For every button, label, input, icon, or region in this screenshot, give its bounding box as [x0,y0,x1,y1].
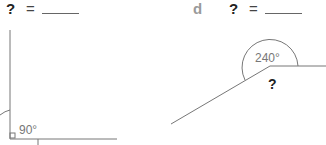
angle-label-240: 240° [255,51,280,65]
unknown-angle-label: ? [268,76,277,92]
right-angle-figure: 90° [0,30,117,145]
reflex-angle-figure: 240° ? [171,39,326,124]
angle-label-90: 90° [19,123,37,137]
slanted-ray [171,66,270,124]
right-angle-marker-icon [10,133,15,138]
angle-arc [0,110,10,115]
angle-diagrams: 90° 240° ? [0,0,326,145]
